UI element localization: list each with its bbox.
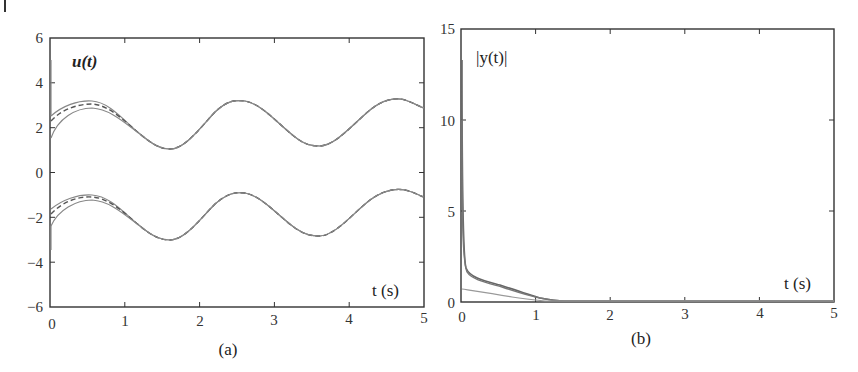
y-ticks-b [461,120,834,211]
y-tick-label: −4 [27,255,43,271]
annotation-t-seconds: t (s) [372,281,399,300]
x-tick-label: 4 [345,311,353,327]
x-tick-label: 0 [458,309,466,325]
x-ticks-a [125,38,349,307]
x-tick-label: 1 [532,307,540,323]
annotation-t-seconds: t (s) [784,274,811,293]
figure-canvas: 6 4 2 0 −2 −4 −6 0 1 2 3 4 5 u(t) t (s) [0,0,858,372]
y-ticks-a [50,83,424,262]
panel-b: 15 10 5 0 0 1 2 3 4 5 |y(t)| t (s) (b) [440,21,838,348]
y-tick-label: 5 [448,204,456,220]
x-tick-label: 3 [270,312,278,328]
y-tick-label: 0 [448,295,456,311]
x-tick-label: 0 [48,316,56,332]
caption-a: (a) [219,340,238,359]
x-tick-label: 4 [756,305,764,321]
axes-box-b [461,29,834,302]
u-upper-band [51,99,424,149]
x-ticks-b [536,29,760,302]
x-tick-label: 2 [196,313,204,329]
axes-box-a [50,38,424,307]
annotation-u-of-t: u(t) [72,52,98,71]
x-tick-label: 5 [420,310,428,326]
panel-a: 6 4 2 0 −2 −4 −6 0 1 2 3 4 5 u(t) t (s) [27,30,428,359]
y-tick-label: 2 [36,120,44,136]
caption-b: (b) [631,329,651,348]
u-lower-band [51,60,424,250]
y-tick-label: −6 [27,299,43,315]
x-tick-label: 3 [681,306,689,322]
y-tick-label: 6 [36,30,44,46]
x-tick-label: 2 [606,307,614,323]
y-tick-label: 0 [36,165,44,181]
y-tick-label: 10 [440,113,455,129]
x-tick-label: 1 [121,313,129,329]
y-tick-label: −2 [27,210,43,226]
y-tick-label: 4 [36,75,44,91]
y-norm-curves [462,60,834,301]
x-tick-label: 5 [830,305,838,321]
annotation-y-norm: |y(t)| [476,48,507,67]
y-tick-label: 15 [440,21,455,37]
